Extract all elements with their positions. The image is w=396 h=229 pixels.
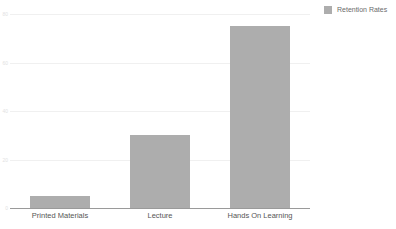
bar-lecture[interactable] bbox=[130, 135, 190, 208]
x-axis-tick-label: Lecture bbox=[147, 211, 172, 221]
y-axis-tick-label: 80 bbox=[0, 12, 8, 17]
x-axis-tick-label: Hands On Learning bbox=[227, 211, 292, 221]
y-axis-tick-label: 60 bbox=[0, 61, 8, 66]
plot-area: 020406080 bbox=[10, 14, 310, 208]
y-axis-tick-label: 40 bbox=[0, 109, 8, 114]
bar-chart: 020406080 Printed MaterialsLectureHands … bbox=[0, 0, 396, 229]
x-axis-line bbox=[10, 208, 310, 209]
y-axis-tick-label: 0 bbox=[0, 206, 8, 211]
y-axis-tick-label: 20 bbox=[0, 158, 8, 163]
x-axis-labels: Printed MaterialsLectureHands On Learnin… bbox=[10, 211, 310, 227]
x-axis-tick-label: Printed Materials bbox=[32, 211, 88, 221]
bar-hands-on-learning[interactable] bbox=[230, 26, 290, 208]
legend-swatch-icon bbox=[324, 6, 332, 14]
chart-legend[interactable]: Retention Rates bbox=[324, 6, 387, 14]
gridline bbox=[10, 14, 310, 15]
legend-label: Retention Rates bbox=[337, 6, 387, 14]
bar-printed-materials[interactable] bbox=[30, 196, 90, 208]
